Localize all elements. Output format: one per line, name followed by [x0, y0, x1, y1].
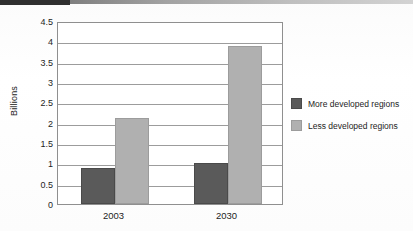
y-tick-label: 0.5 [27, 181, 53, 190]
legend-item: More developed regions [291, 98, 411, 109]
y-tick-label: 2.5 [27, 99, 53, 108]
y-tick-label: 4 [27, 38, 53, 47]
y-axis-title: Billions [9, 71, 19, 131]
chart-legend: More developed regionsLess developed reg… [291, 98, 411, 142]
legend-swatch-icon [291, 120, 302, 131]
legend-item: Less developed regions [291, 120, 411, 131]
bar-group [171, 23, 284, 204]
y-tick-label: 4.5 [27, 18, 53, 27]
bar-group [58, 23, 171, 204]
scanned-page-background: Billions 4.543.532.521.510.50 20032030 M… [0, 0, 413, 231]
y-axis-tick-labels: 4.543.532.521.510.50 [23, 22, 53, 205]
y-tick-label: 3 [27, 79, 53, 88]
bar [228, 46, 262, 204]
y-tick-label: 1.5 [27, 140, 53, 149]
bar [81, 168, 115, 204]
plot-area [57, 22, 283, 205]
bar [194, 163, 228, 204]
y-tick-label: 3.5 [27, 59, 53, 68]
y-tick-label: 1 [27, 160, 53, 169]
bar [115, 118, 149, 204]
y-tick-label: 2 [27, 120, 53, 129]
x-tick-label: 2030 [187, 210, 267, 221]
y-tick-label: 0 [27, 201, 53, 210]
x-tick-label: 2003 [74, 210, 154, 221]
legend-label: More developed regions [308, 99, 399, 109]
bar-chart: Billions 4.543.532.521.510.50 20032030 M… [0, 0, 413, 231]
legend-label: Less developed regions [308, 121, 398, 131]
legend-swatch-icon [291, 98, 302, 109]
